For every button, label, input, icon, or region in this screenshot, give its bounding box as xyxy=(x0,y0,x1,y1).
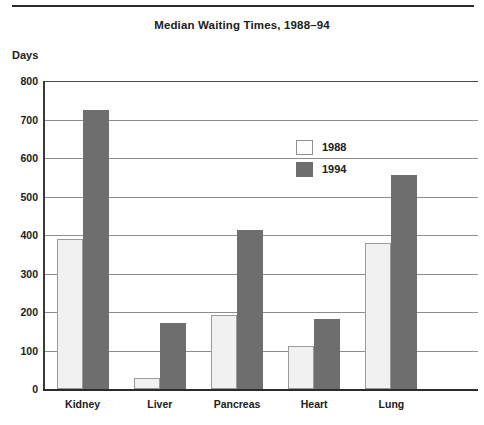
bar-liver-1988 xyxy=(134,378,160,389)
y-tick-label-700: 700 xyxy=(20,114,38,126)
bar-liver-1994 xyxy=(160,323,186,389)
plot-area: 0100200300400500600700800 xyxy=(44,81,430,389)
y-tick-label-400: 400 xyxy=(20,229,38,241)
bar-lung-1988 xyxy=(365,243,391,389)
legend-item-1994: 1994 xyxy=(296,158,400,180)
chart-figure: Median Waiting Times, 1988–94 Days 01002… xyxy=(0,0,484,425)
legend-item-1988: 1988 xyxy=(296,136,400,158)
x-tick-label-pancreas: Pancreas xyxy=(214,398,261,410)
y-axis-title: Days xyxy=(12,49,38,61)
bar-kidney-1988 xyxy=(57,239,83,389)
bars-group xyxy=(44,81,430,389)
legend-swatch-1994-icon xyxy=(296,162,313,177)
x-tick-label-liver: Liver xyxy=(147,398,172,410)
x-tick-label-kidney: Kidney xyxy=(65,398,100,410)
header-rule xyxy=(12,5,474,7)
y-tick-label-600: 600 xyxy=(20,152,38,164)
y-tick-label-800: 800 xyxy=(20,75,38,87)
legend-label-1988: 1988 xyxy=(322,141,346,153)
legend-swatch-1988-icon xyxy=(296,140,313,155)
y-tick-label-300: 300 xyxy=(20,268,38,280)
legend: 1988 1994 xyxy=(296,136,400,180)
bar-heart-1994 xyxy=(314,319,340,389)
bar-heart-1988 xyxy=(288,346,314,389)
x-tick-label-lung: Lung xyxy=(379,398,405,410)
x-axis-line xyxy=(43,389,478,391)
bar-pancreas-1994 xyxy=(237,230,263,389)
bar-lung-1994 xyxy=(391,175,417,389)
legend-label-1994: 1994 xyxy=(322,163,346,175)
y-tick-label-200: 200 xyxy=(20,306,38,318)
bar-kidney-1994 xyxy=(83,110,109,389)
y-tick-label-500: 500 xyxy=(20,191,38,203)
x-tick-label-heart: Heart xyxy=(301,398,328,410)
y-tick-label-0: 0 xyxy=(32,383,38,395)
page-title: Median Waiting Times, 1988–94 xyxy=(0,19,484,31)
bar-pancreas-1988 xyxy=(211,315,237,389)
y-tick-label-100: 100 xyxy=(20,345,38,357)
